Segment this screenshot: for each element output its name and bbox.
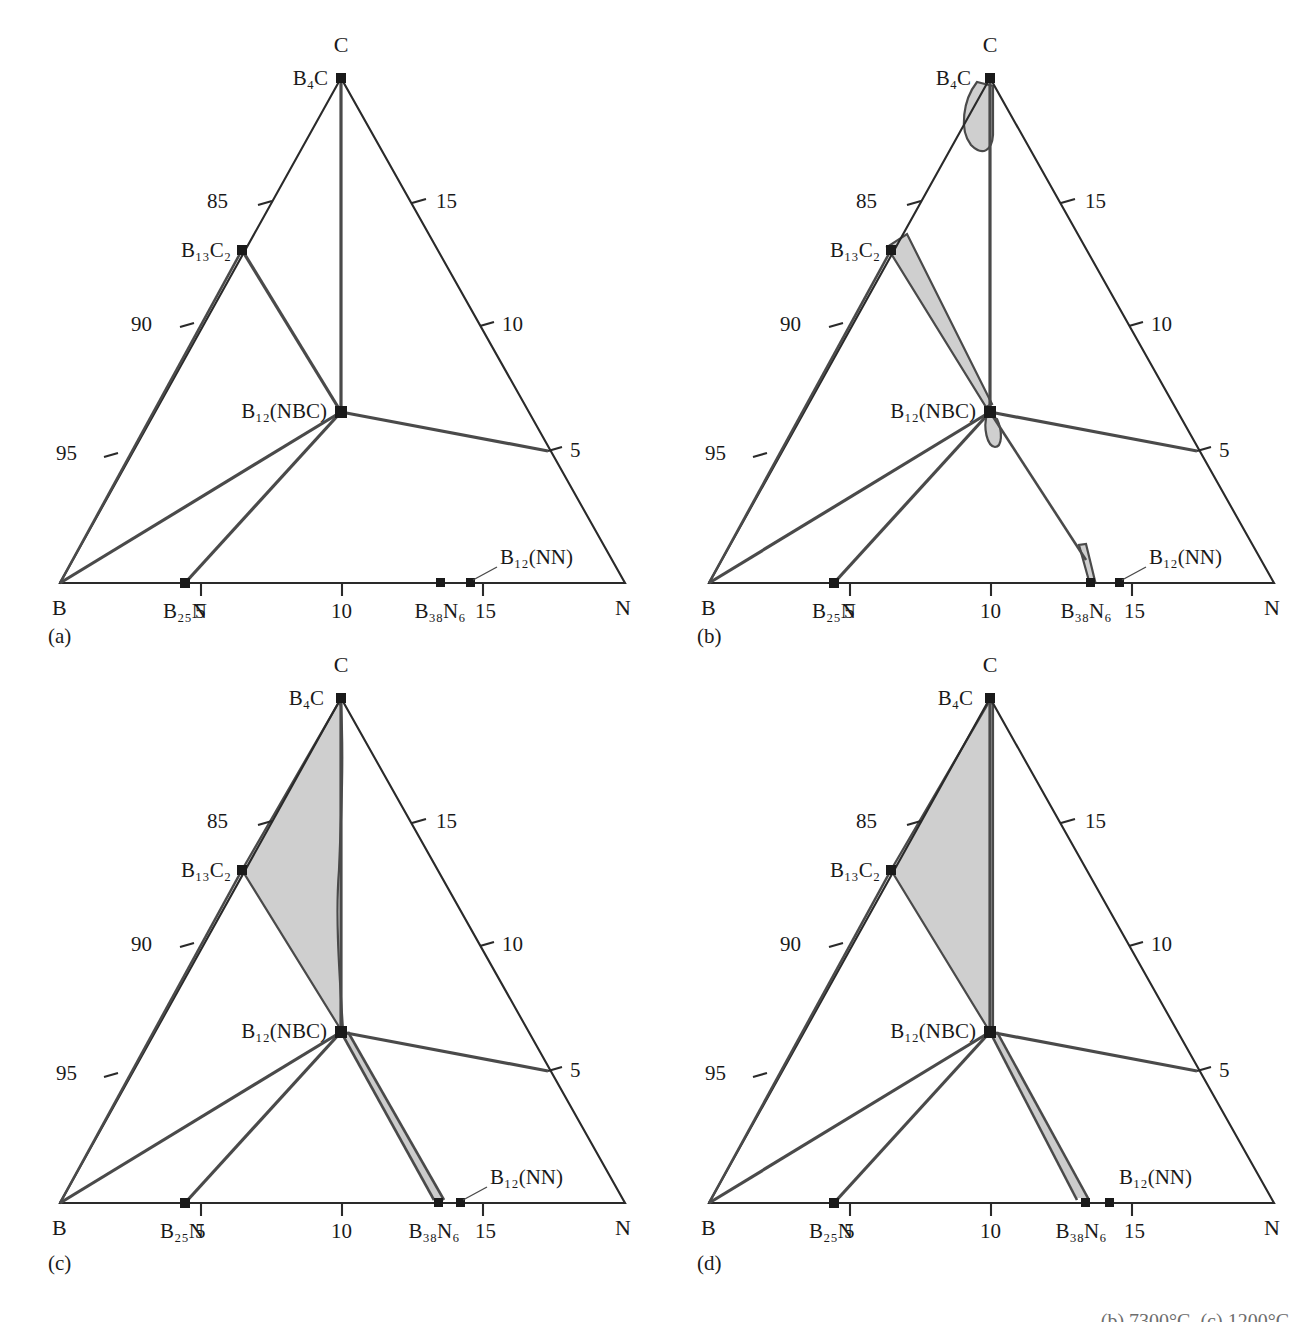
panel-label-d: (d) — [697, 1251, 722, 1275]
solid-solution-field-b13c2-b — [887, 234, 992, 407]
figure-caption-fragment: (b) 7300°C, (c) 1200°C — [0, 1306, 1299, 1322]
node-c-d — [985, 693, 995, 703]
compound-label-b38n6-d: B₃₈N₆ — [1055, 1219, 1106, 1243]
left-tick-90-d — [829, 943, 843, 947]
compound-label-b4c-b: B₄C — [936, 66, 971, 90]
vertex-label-c-b: C — [983, 32, 998, 57]
bottom-tick-label-15-d: 15 — [1124, 1219, 1145, 1243]
left-tick-label-90-a: 90 — [131, 312, 152, 336]
solid-solution-field-main-d — [891, 702, 993, 1032]
vertex-label-n-d: N — [1264, 1215, 1280, 1240]
left-tick-label-85-a: 85 — [207, 189, 228, 213]
vertex-label-b-c: B — [52, 1215, 67, 1240]
left-tick-label-95-c: 95 — [56, 1061, 77, 1085]
tieline-b12nbc-to-rightedge-a — [341, 412, 548, 451]
vertex-label-c-c: C — [334, 652, 349, 677]
compound-label-b13c2-c: B₁₃C₂ — [181, 858, 231, 882]
tieline-b-to-b13c2-b — [709, 250, 891, 583]
node-b25n-c — [180, 1198, 190, 1208]
compound-label-b12nn-c: B₁₂(NN) — [490, 1165, 563, 1189]
compound-label-b12nbc-c: B₁₂(NBC) — [241, 1019, 327, 1043]
vertex-label-n-b: N — [1264, 595, 1280, 620]
compound-label-b25n-c: B₂₅N — [160, 1219, 204, 1243]
compound-label-b12nn-b: B₁₂(NN) — [1149, 545, 1222, 569]
right-tick-label-5-a: 5 — [570, 438, 581, 462]
solid-solution-field-main-c — [242, 702, 343, 1030]
left-tick-90-b — [829, 323, 843, 327]
tieline-b12nbc-to-rightedge-b — [990, 412, 1197, 451]
solid-solution-field-b38n6-b — [1079, 544, 1095, 581]
right-tick-label-15-a: 15 — [436, 189, 457, 213]
compound-label-b12nbc-a: B₁₂(NBC) — [241, 399, 327, 423]
panel-d: 85 90 95 15 10 5 5 10 15 C B N B₄C B₁₃C₂… — [649, 620, 1299, 1280]
tieline-b12nbc-to-b38n6-left-d — [990, 1032, 1077, 1200]
panel-c: 85 90 95 15 10 5 5 10 15 C B N B₄C B₁₃C₂ — [0, 620, 650, 1280]
node-b12nbc-d — [984, 1026, 996, 1038]
tieline-b12nbc-to-b38n6-right-c — [348, 1032, 444, 1200]
left-tick-label-85-b: 85 — [856, 189, 877, 213]
compound-label-b12nbc-d: B₁₂(NBC) — [890, 1019, 976, 1043]
panel-b: 85 90 95 15 10 5 5 10 15 C B N B₄C B₁₃C₂… — [649, 0, 1299, 660]
tieline-b12nbc-to-b25n-d — [834, 1032, 990, 1203]
node-b13c2-b — [886, 245, 896, 255]
compound-label-b4c-d: B₄C — [938, 686, 973, 710]
vertex-label-n-a: N — [615, 595, 631, 620]
node-b12nbc-a — [335, 406, 347, 418]
tieline-b12nbc-to-b25n-c — [185, 1032, 341, 1203]
leader-b12nn-c — [463, 1187, 487, 1200]
right-tick-label-15-c: 15 — [436, 809, 457, 833]
left-tick-90-c — [180, 943, 194, 947]
node-b25n-b — [829, 578, 839, 588]
compound-label-b13c2-d: B₁₃C₂ — [830, 858, 880, 882]
right-tick-10-a — [480, 322, 494, 326]
tieline-b12nbc-to-b25n-b — [834, 412, 990, 583]
node-b25n-d — [829, 1198, 839, 1208]
compound-label-b12nbc-b: B₁₂(NBC) — [890, 399, 976, 423]
right-tick-10-c — [480, 942, 494, 946]
node-b12nbc-c — [335, 1026, 347, 1038]
tieline-b-to-b13c2-a — [60, 250, 242, 583]
node-b13c2-c — [237, 865, 247, 875]
node-b38n6-a — [436, 578, 445, 587]
vertex-label-b-a: B — [52, 595, 67, 620]
tieline-b12nbc-to-b-b — [709, 412, 990, 583]
node-b38n6-d — [1081, 1198, 1090, 1207]
left-tick-label-85-d: 85 — [856, 809, 877, 833]
left-tick-label-95-a: 95 — [56, 441, 77, 465]
left-tick-label-90-c: 90 — [131, 932, 152, 956]
right-tick-15-b — [1061, 199, 1075, 203]
bottom-tick-label-10-c: 10 — [331, 1219, 352, 1243]
right-tick-15-c — [412, 819, 426, 823]
tieline-b12nbc-to-rightedge-d — [990, 1032, 1197, 1071]
left-tick-label-90-d: 90 — [780, 932, 801, 956]
right-tick-label-10-c: 10 — [502, 932, 523, 956]
bottom-tick-label-15-c: 15 — [475, 1219, 496, 1243]
vertex-label-c-a: C — [334, 32, 349, 57]
tieline-b12nbc-to-b38n6-right-d — [997, 1032, 1089, 1200]
compound-label-b4c-c: B₄C — [289, 686, 324, 710]
tieline-b12nbc-to-rightedge-c — [341, 1032, 548, 1071]
left-tick-label-85-c: 85 — [207, 809, 228, 833]
compound-label-b13c2-a: B₁₃C₂ — [181, 238, 231, 262]
node-c-b — [985, 73, 995, 83]
right-tick-15-a — [412, 199, 426, 203]
tieline-b13c2-to-b12nbc-a — [242, 250, 341, 412]
compound-label-b12nn-d: B₁₂(NN) — [1119, 1165, 1192, 1189]
left-tick-95-c — [104, 1073, 118, 1077]
left-tick-90-a — [180, 323, 194, 327]
right-tick-label-15-d: 15 — [1085, 809, 1106, 833]
left-tick-95-a — [104, 453, 118, 457]
tieline-b12nbc-to-b-d — [709, 1032, 990, 1203]
tieline-b12nbc-to-b38n6-b — [990, 412, 1086, 560]
right-tick-label-5-b: 5 — [1219, 438, 1230, 462]
right-tick-label-10-a: 10 — [502, 312, 523, 336]
left-tick-label-95-d: 95 — [705, 1061, 726, 1085]
node-b12nbc-b — [984, 406, 996, 418]
node-b12nn-d — [1105, 1198, 1114, 1207]
tieline-b12nbc-to-b-a — [60, 412, 341, 583]
tieline-b-to-b13c2-c — [60, 870, 242, 1203]
left-tick-95-b — [753, 453, 767, 457]
tieline-b12nbc-to-b25n-a — [185, 412, 341, 583]
tieline-b-to-b13c2-d — [709, 870, 891, 1203]
compound-label-b12nn-a: B₁₂(NN) — [500, 545, 573, 569]
